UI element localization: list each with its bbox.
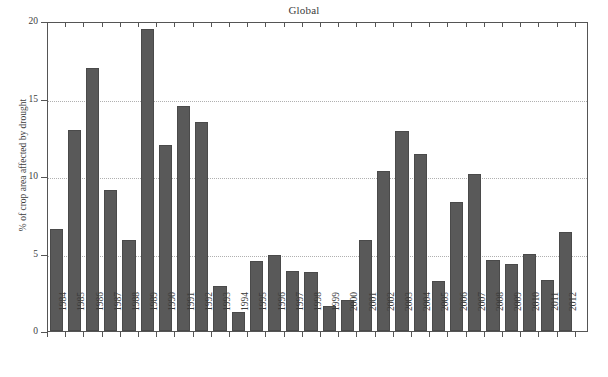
x-tick-top-14 [302,22,303,27]
y-tick-label-10: 10 [0,172,38,182]
x-tick-label-2005: 2005 [441,292,451,338]
x-tick-label-1988: 1988 [132,292,142,338]
x-tick-top-10 [229,22,230,27]
x-tick-label-1989: 1989 [150,292,160,338]
x-tick-top-5 [138,22,139,27]
x-tick-top-24 [484,22,485,27]
x-tick-label-1994: 1994 [241,292,251,338]
x-tick-label-2010: 2010 [532,292,542,338]
x-tick-top-22 [447,22,448,27]
page-title: Global [0,4,608,16]
y-tick-label-15: 15 [0,95,38,105]
x-tick-label-1986: 1986 [96,292,106,338]
chart-figure: Global % of crop area affected by drough… [0,0,608,377]
x-tick-label-1990: 1990 [168,292,178,338]
x-tick-label-2007: 2007 [478,292,488,338]
bar-series [48,23,587,331]
x-tick-top-23 [466,22,467,27]
x-tick-top-19 [393,22,394,27]
plot-area [47,22,588,332]
x-tick-label-2008: 2008 [496,292,506,338]
x-tick-label-1995: 1995 [259,292,269,338]
x-tick-top-6 [156,22,157,27]
x-tick-label-2004: 2004 [423,292,433,338]
y-tick-15 [41,100,47,101]
x-tick-label-2000: 2000 [350,292,360,338]
x-tick-top-16 [338,22,339,27]
x-tick-top-4 [120,22,121,27]
bar-1989[interactable] [141,29,154,331]
x-tick-label-1997: 1997 [296,292,306,338]
x-tick-label-1996: 1996 [278,292,288,338]
x-tick-label-2012: 2012 [569,292,579,338]
x-tick-top-11 [247,22,248,27]
y-tick-5 [41,255,47,256]
x-tick-top-9 [211,22,212,27]
y-tick-10 [41,177,47,178]
x-tick-label-1985: 1985 [77,292,87,338]
x-tick-label-2006: 2006 [460,292,470,338]
x-tick-top-2 [83,22,84,27]
x-tick-label-2001: 2001 [369,292,379,338]
x-tick-top-17 [356,22,357,27]
x-tick-label-1984: 1984 [59,292,69,338]
y-tick-label-5: 5 [0,250,38,260]
x-tick-top-15 [320,22,321,27]
x-tick-top-29 [575,22,576,27]
x-tick-top-28 [557,22,558,27]
x-tick-top-26 [520,22,521,27]
x-tick-top-1 [65,22,66,27]
x-tick-top-0 [47,22,48,27]
y-tick-label-20: 20 [0,17,38,27]
x-tick-label-2003: 2003 [405,292,415,338]
x-tick-top-18 [375,22,376,27]
x-tick-label-2002: 2002 [387,292,397,338]
x-tick-label-1999: 1999 [332,292,342,338]
x-tick-top-8 [193,22,194,27]
x-tick-top-3 [102,22,103,27]
x-tick-label-2009: 2009 [514,292,524,338]
x-tick-top-21 [429,22,430,27]
x-tick-top-12 [265,22,266,27]
x-tick-top-20 [411,22,412,27]
x-tick-top-27 [538,22,539,27]
x-tick-top-25 [502,22,503,27]
x-tick-bottom-0 [47,332,48,337]
y-tick-label-0: 0 [0,327,38,337]
x-tick-top-7 [174,22,175,27]
x-tick-label-2011: 2011 [551,292,561,338]
x-tick-top-13 [284,22,285,27]
x-tick-label-1993: 1993 [223,292,233,338]
x-tick-label-1992: 1992 [205,292,215,338]
x-tick-label-1998: 1998 [314,292,324,338]
x-tick-label-1991: 1991 [187,292,197,338]
x-tick-label-1987: 1987 [114,292,124,338]
